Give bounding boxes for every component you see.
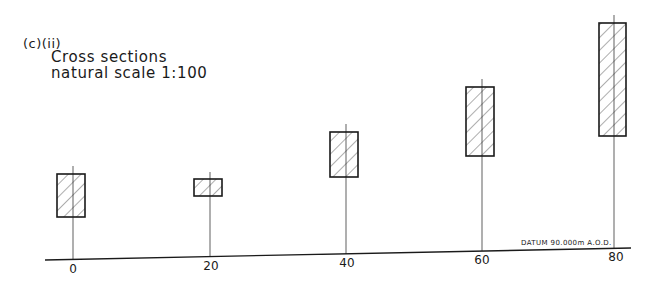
hatched-section-rect <box>194 179 222 196</box>
hatched-section-rect <box>466 87 494 156</box>
datum-note: DATUM 90.000m A.O.D. <box>521 239 612 247</box>
hatched-section-rect <box>330 132 358 177</box>
cross-section-0 <box>57 166 85 260</box>
datum-baseline <box>45 248 631 260</box>
hatched-section-rect <box>57 174 85 217</box>
cross-section-60 <box>466 79 494 251</box>
figure-scale-note: natural scale 1:100 <box>51 64 207 82</box>
chainage-label-20: 20 <box>203 259 218 273</box>
hatched-section-rect <box>599 23 626 136</box>
chainage-label-80: 80 <box>608 250 623 264</box>
cross-sections-diagram: (c)(ii) Cross sections natural scale 1:1… <box>0 0 661 285</box>
cross-section-20 <box>194 172 222 257</box>
cross-section-80 <box>599 15 626 248</box>
chainage-label-40: 40 <box>339 256 354 270</box>
cross-section-40 <box>330 124 358 254</box>
baseline-line <box>45 248 631 260</box>
chainage-label-60: 60 <box>474 253 489 267</box>
chainage-label-0: 0 <box>69 262 77 276</box>
